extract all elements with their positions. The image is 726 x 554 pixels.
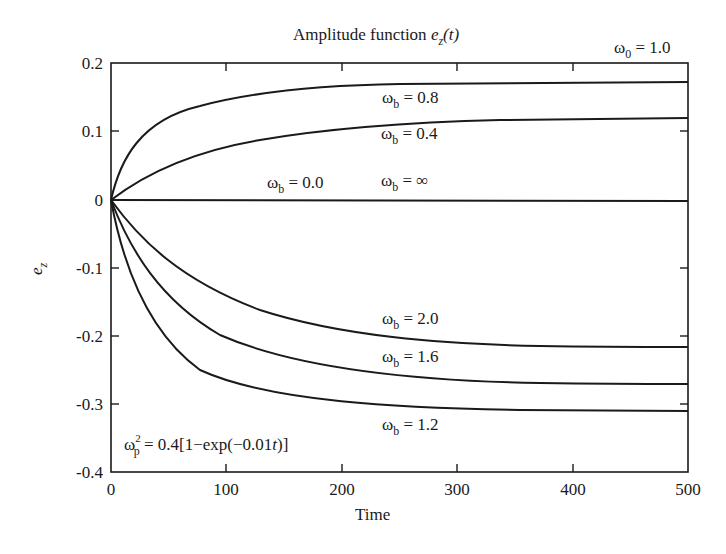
- svg-text:0.1: 0.1: [82, 122, 103, 141]
- svg-text:400: 400: [560, 480, 586, 499]
- y-tick-labels: 0.2 0.1 0 -0.1 -0.2 -0.3 -0.4: [76, 54, 103, 482]
- label-wb-1.6: ωb = 1.6: [382, 347, 439, 370]
- svg-text:-0.3: -0.3: [76, 395, 103, 414]
- svg-text:200: 200: [329, 480, 355, 499]
- label-wb-inf: ωb = ∞: [381, 171, 428, 194]
- svg-text:300: 300: [444, 480, 470, 499]
- svg-text:0.2: 0.2: [82, 54, 103, 73]
- label-wb-0.0: ωb = 0.0: [267, 173, 324, 196]
- y-axis-label: ez: [27, 262, 50, 275]
- svg-text:500: 500: [675, 480, 701, 499]
- svg-text:-0.4: -0.4: [76, 463, 103, 482]
- svg-text:0: 0: [107, 480, 116, 499]
- x-axis-label: Time: [355, 505, 390, 524]
- omega0-annotation: ω0 = 1.0: [614, 38, 671, 61]
- curve-labels: ωb = 0.8 ωb = 0.4 ωb = 0.0 ωb = ∞ ωb = 2…: [267, 88, 439, 438]
- label-wb-2.0: ωb = 2.0: [382, 309, 439, 332]
- svg-text:0: 0: [95, 191, 104, 210]
- chart-root: Amplitude function ez(t) ω0 = 1.0 0.2 0.…: [0, 0, 726, 554]
- svg-text:-0.1: -0.1: [76, 259, 103, 278]
- curve-wb-1.2: [111, 200, 688, 411]
- omega-p-annotation: ω2p = 0.4[1−exp(−0.01t)]: [124, 432, 288, 458]
- svg-text:100: 100: [213, 480, 239, 499]
- label-wb-1.2: ωb = 1.2: [382, 415, 439, 438]
- svg-text:-0.2: -0.2: [76, 327, 103, 346]
- curve-wb-0.0: [111, 200, 688, 201]
- label-wb-0.4: ωb = 0.4: [381, 124, 438, 147]
- chart-title: Amplitude function ez(t): [293, 25, 459, 48]
- label-wb-0.8: ωb = 0.8: [382, 88, 439, 111]
- x-tick-labels: 0 100 200 300 400 500: [107, 480, 701, 499]
